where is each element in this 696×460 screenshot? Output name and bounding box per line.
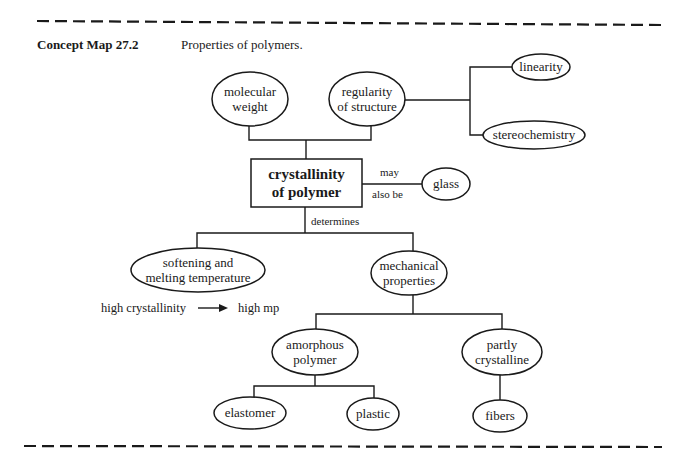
node-amorphous-label: amorphous	[286, 337, 344, 352]
node-regularity-label: of structure	[337, 99, 397, 114]
node-amorphous-label: polymer	[293, 352, 337, 367]
node-molecular-weight-label: molecular	[224, 84, 277, 99]
node-mechanical-label: properties	[383, 273, 435, 288]
node-crystallinity-label: of polymer	[272, 184, 342, 200]
link-label-also-be: also be	[372, 188, 403, 200]
node-softening-label: melting temperature	[145, 270, 250, 285]
node-linearity-label: linearity	[519, 59, 563, 74]
arrow-icon	[219, 304, 228, 312]
node-partly-crystalline-label: partly	[487, 337, 518, 352]
node-fibers-label: fibers	[485, 408, 515, 423]
connector-determines-branch	[197, 233, 413, 251]
node-glass-label: glass	[433, 176, 459, 191]
link-label-determines: determines	[311, 215, 359, 227]
node-molecular-weight-label: weight	[232, 99, 268, 114]
node-crystallinity-label: crystallinity	[268, 166, 345, 182]
node-partly-crystalline-label: crystalline	[475, 352, 529, 367]
concept-map-diagram: may also be determines high crystallinit…	[0, 0, 696, 460]
connector-mw-cryst	[249, 126, 371, 140]
link-label-may: may	[380, 166, 399, 178]
connector-mechanical-branch	[316, 314, 502, 329]
node-softening-label: softening and	[163, 255, 234, 270]
bottom-divider	[24, 446, 662, 447]
note-high-mp: high mp	[238, 301, 279, 315]
note-high-crystallinity: high crystallinity	[101, 301, 187, 315]
top-divider	[37, 21, 662, 25]
node-regularity-label: regularity	[342, 84, 393, 99]
node-mechanical-label: mechanical	[379, 258, 439, 273]
node-stereochemistry-label: stereochemistry	[493, 127, 576, 142]
connector-amorphous-branch	[254, 386, 374, 398]
node-elastomer-label: elastomer	[225, 405, 276, 420]
node-plastic-label: plastic	[356, 406, 390, 421]
